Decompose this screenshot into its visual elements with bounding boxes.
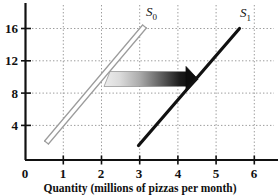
- y-tick-label-16: 16: [0, 21, 18, 37]
- curve-label-s1: S1: [240, 5, 251, 23]
- y-tick-label-4: 4: [0, 118, 18, 134]
- y-tick-label-12: 12: [0, 53, 18, 69]
- y-tick-label-8: 8: [0, 86, 18, 102]
- supply-shift-arrow: [104, 67, 198, 92]
- x-tick-label-4: 4: [170, 166, 186, 182]
- x-tick-label-2: 2: [93, 166, 109, 182]
- curve-label-s1-sub: 1: [247, 13, 252, 23]
- x-tick-label-1: 1: [55, 166, 71, 182]
- x-tick-label-0: 0: [17, 166, 33, 182]
- supply-curve-s1: [139, 29, 240, 146]
- x-tick-label-6: 6: [246, 166, 262, 182]
- curve-label-s0-sub: 0: [153, 12, 158, 22]
- supply-shift-chart: 16 12 8 4 0 1 2 3 4 5 6 S0 S1 Quantity (…: [0, 0, 280, 195]
- curve-label-s0: S0: [146, 4, 157, 22]
- x-tick-label-3: 3: [131, 166, 147, 182]
- x-axis-caption: Quantity (millions of pizzas per month): [0, 182, 280, 194]
- x-tick-label-5: 5: [208, 166, 224, 182]
